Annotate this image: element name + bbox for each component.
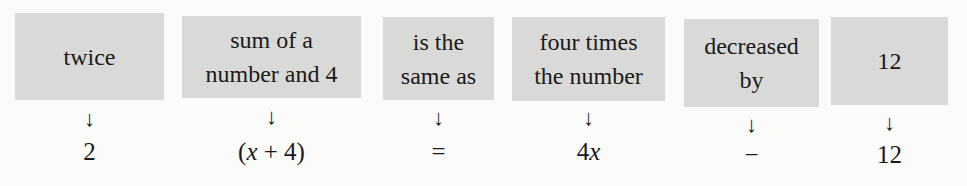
term-four-times-the-number: four times the number ↓ 4x — [512, 0, 665, 186]
expression-x-plus-4: (x + 4) — [182, 137, 361, 167]
term-sum-of-number-and-4: sum of a number and 4 ↓ (x + 4) — [182, 0, 361, 186]
phrase-text: 12 — [878, 44, 902, 78]
phrase-text: twice — [64, 40, 116, 74]
phrase-box-twice: twice — [15, 13, 164, 100]
down-arrow-icon: ↓ — [15, 108, 164, 130]
phrase-text-line-2: by — [740, 63, 764, 97]
phrase-text-line-2: same as — [401, 59, 476, 93]
phrase-box-four-times: four times the number — [512, 17, 665, 101]
term-is-the-same-as: is the same as ↓ = — [383, 0, 494, 186]
phrase-box-same-as: is the same as — [383, 17, 494, 100]
phrase-text-line-1: is the — [413, 25, 464, 59]
phrase-text-line-1: sum of a — [230, 23, 313, 57]
down-arrow-icon: ↓ — [831, 112, 948, 134]
down-arrow-icon: ↓ — [182, 106, 361, 128]
expression-minus: − — [684, 140, 819, 170]
expression-12: 12 — [831, 140, 948, 170]
expression-2: 2 — [15, 137, 164, 167]
phrase-box-12: 12 — [831, 17, 948, 105]
phrase-text-line-1: four times — [540, 25, 638, 59]
term-12: 12 ↓ 12 — [831, 0, 948, 186]
expression-equals: = — [383, 137, 494, 167]
expression-4x: 4x — [512, 137, 665, 167]
phrase-box-sum: sum of a number and 4 — [182, 16, 361, 98]
phrase-text-line-1: decreased — [704, 29, 799, 63]
down-arrow-icon: ↓ — [512, 107, 665, 129]
phrase-box-decreased-by: decreased by — [684, 19, 819, 107]
down-arrow-icon: ↓ — [684, 114, 819, 136]
phrase-text-line-2: number and 4 — [206, 57, 338, 91]
phrase-text-line-2: the number — [534, 59, 643, 93]
term-decreased-by: decreased by ↓ − — [684, 0, 819, 186]
down-arrow-icon: ↓ — [383, 107, 494, 129]
term-twice: twice ↓ 2 — [15, 0, 164, 186]
